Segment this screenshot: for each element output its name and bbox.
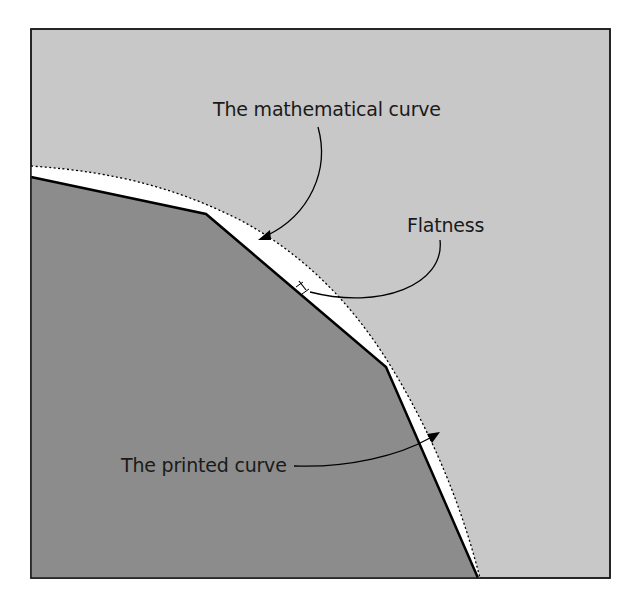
printed-curve-label: The printed curve	[121, 454, 287, 476]
flatness-label: Flatness	[407, 214, 484, 236]
diagram-canvas	[0, 0, 641, 603]
mathematical-curve-label: The mathematical curve	[213, 98, 441, 120]
flatness-diagram: The mathematical curve Flatness The prin…	[0, 0, 641, 603]
